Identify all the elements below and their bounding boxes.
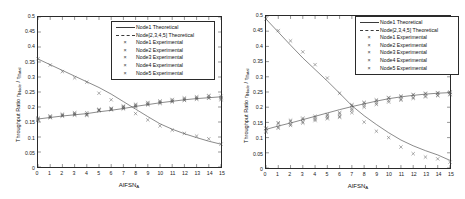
x-tick-label: 5 <box>97 170 100 176</box>
y-axis-label-right: Throughput Ratio ηNode / ηTotal <box>243 68 250 143</box>
x-marker-swatch: × <box>367 66 370 71</box>
x-marker-swatch: × <box>123 63 126 68</box>
data-point-marker <box>195 134 198 137</box>
x-tick-label: 6 <box>110 170 113 176</box>
x-marker-swatch: × <box>367 50 370 55</box>
data-point-marker <box>399 145 402 148</box>
legend-x-marker-icon: × <box>358 49 380 57</box>
y-tick-label: 0.3 <box>28 74 35 80</box>
data-point-marker <box>387 136 390 139</box>
y-tick-label: 0.05 <box>253 151 263 157</box>
data-point-marker <box>362 106 365 109</box>
x-tick-label: 11 <box>170 170 175 176</box>
data-point-marker <box>207 97 210 100</box>
series-markers <box>36 96 222 122</box>
x-tick-label: 2 <box>288 171 291 177</box>
data-point-marker <box>436 94 439 97</box>
x-tick-label: 0 <box>264 171 267 177</box>
series-markers <box>264 93 451 134</box>
data-point-marker <box>326 76 329 79</box>
x-tick-label: 11 <box>399 171 404 177</box>
legend-item-label: Node[2,3,4,5] Theoretical <box>380 27 438 35</box>
data-point-marker <box>207 137 210 140</box>
x-tick-label: 3 <box>301 171 304 177</box>
x-marker-swatch: × <box>367 35 370 40</box>
x-tick-label: 3 <box>73 170 76 176</box>
x-tick-label: 15 <box>219 170 225 176</box>
x-tick-label: 10 <box>386 171 392 177</box>
x-tick-label: 14 <box>207 170 213 176</box>
legend-item: ×Node4 Experimental <box>358 57 455 65</box>
x-tick-label: 13 <box>194 170 200 176</box>
legend-item: Node[2,3,4,5] Theoretical <box>358 27 455 35</box>
legend-x-marker-icon: × <box>114 62 136 70</box>
y-tick-label: 0.35 <box>253 58 263 64</box>
x-tick-label: 12 <box>182 170 188 176</box>
x-tick-label: 9 <box>147 170 150 176</box>
x-tick-label: 8 <box>134 170 137 176</box>
legend-left: Node1 TheoreticalNode[2,3,4,5] Theoretic… <box>111 21 215 80</box>
line-swatch <box>360 22 379 23</box>
legend-x-marker-icon: × <box>114 39 136 47</box>
x-marker-swatch: × <box>123 55 126 60</box>
series-markers <box>264 92 451 132</box>
x-tick-label: 7 <box>122 170 125 176</box>
legend-item-label: Node2 Experimental <box>136 47 183 55</box>
x-axis-label-left: AIFSNA <box>119 182 140 189</box>
data-point-marker <box>313 63 316 66</box>
legend-item-label: Node[2,3,4,5] Theoretical <box>136 32 194 40</box>
data-point-marker <box>412 152 415 155</box>
data-point-marker <box>110 98 113 101</box>
data-point-marker <box>158 124 161 127</box>
y-tick-label: 0.15 <box>253 120 263 126</box>
data-point-marker <box>436 91 439 94</box>
data-point-marker <box>301 50 304 53</box>
legend-x-marker-icon: × <box>358 65 380 73</box>
data-point-marker <box>73 76 76 79</box>
legend-item: ×Node2 Experimental <box>114 47 211 55</box>
legend-item: ×Node3 Experimental <box>114 54 211 62</box>
y-tick-label: 0 <box>32 165 35 171</box>
x-tick-label: 14 <box>436 171 442 177</box>
x-marker-swatch: × <box>123 40 126 45</box>
data-point-marker <box>436 157 439 160</box>
data-point-marker <box>207 94 210 97</box>
legend-item: Node1 Theoretical <box>358 19 455 27</box>
y-tick-label: 0.5 <box>256 12 263 18</box>
legend-item-label: Node1 Theoretical <box>136 24 178 32</box>
line-swatch <box>116 27 135 28</box>
legend-item-label: Node1 Experimental <box>136 39 183 47</box>
legend-item-label: Node1 Theoretical <box>380 19 422 27</box>
y-tick-label: 0.25 <box>25 89 35 95</box>
x-marker-swatch: × <box>123 71 126 76</box>
y-tick-label: 0.35 <box>25 59 35 65</box>
data-point-marker <box>362 104 365 107</box>
y-tick-label: 0.25 <box>253 89 263 95</box>
series-line <box>38 97 221 119</box>
chart-panel-right: 0123456789101112131415 00.050.10.150.20.… <box>233 0 465 199</box>
y-tick-label: 0.2 <box>28 104 35 110</box>
legend-item: ×Node4 Experimental <box>114 62 211 70</box>
legend-line-icon <box>358 27 380 35</box>
data-point-marker <box>134 112 137 115</box>
data-point-marker <box>36 57 39 60</box>
data-point-marker <box>350 109 353 112</box>
y-axis-label-left: Throughput Ratio ηNode / ηTotal <box>15 67 22 142</box>
legend-x-marker-icon: × <box>114 70 136 78</box>
x-tick-label: 12 <box>411 171 417 177</box>
data-point-marker <box>375 130 378 133</box>
x-tick-label: 10 <box>157 170 163 176</box>
x-tick-label: 2 <box>60 170 63 176</box>
y-tick-label: 0.45 <box>253 27 263 33</box>
legend-item-label: Node5 Experimental <box>380 65 427 73</box>
legend-line-icon <box>114 24 136 32</box>
legend-item-label: Node2 Experimental <box>380 42 427 50</box>
x-tick-label: 6 <box>338 171 341 177</box>
y-tick-label: 0.05 <box>25 150 35 156</box>
x-tick-label: 1 <box>276 171 279 177</box>
legend-item: ×Node1 Experimental <box>114 39 211 47</box>
y-tick-label: 0.4 <box>28 43 35 49</box>
legend-item-label: Node3 Experimental <box>380 49 427 57</box>
series-markers <box>264 90 451 130</box>
legend-item: ×Node1 Experimental <box>358 34 455 42</box>
